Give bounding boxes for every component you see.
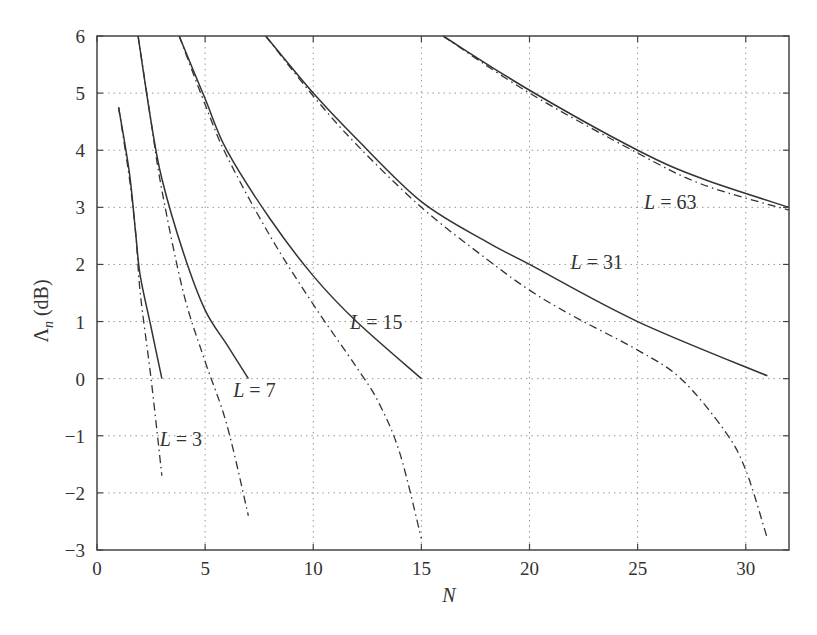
series-l-31-dash-dot <box>266 36 768 539</box>
y-tick-label: 4 <box>76 140 86 161</box>
series-l-63-dash-dot <box>443 36 789 210</box>
curve-label: L = 63 <box>643 191 696 213</box>
x-tick-label: 25 <box>628 558 647 579</box>
x-tick-label: 10 <box>304 558 323 579</box>
curve-label: L = 15 <box>349 311 402 333</box>
y-axis-title-subscript: n <box>41 321 56 328</box>
x-tick-label: 5 <box>200 558 210 579</box>
y-axis-title: Λn (dB) <box>30 279 56 342</box>
y-tick-label: 0 <box>76 369 86 390</box>
series-l-7 <box>138 36 248 379</box>
curve-label: L = 7 <box>232 379 275 401</box>
y-tick-label: 2 <box>76 254 86 275</box>
data-series <box>119 36 789 539</box>
y-tick-label: 3 <box>76 197 86 218</box>
line-chart: 051015202530−3−2−10123456 L = 3L = 7L = … <box>0 0 817 635</box>
plot-frame <box>97 36 789 550</box>
y-axis-title-symbol: Λ <box>30 328 52 343</box>
grid-lines <box>97 36 789 550</box>
curve-label: L = 3 <box>159 428 202 450</box>
x-tick-label: 0 <box>92 558 102 579</box>
curve-labels: L = 3L = 7L = 15L = 31L = 63 <box>159 191 697 450</box>
y-tick-label: −3 <box>65 540 85 561</box>
y-tick-label: 1 <box>76 312 86 333</box>
series-l-15-dash-dot <box>179 36 421 539</box>
x-tick-label: 15 <box>412 558 431 579</box>
y-tick-label: −1 <box>65 426 85 447</box>
y-tick-label: 5 <box>76 83 86 104</box>
x-tick-label: 20 <box>520 558 539 579</box>
x-tick-label: 30 <box>736 558 755 579</box>
y-tick-label: −2 <box>65 483 85 504</box>
series-l-3-dash-dot <box>119 107 162 475</box>
axis-ticks: 051015202530−3−2−10123456 <box>65 26 789 579</box>
x-axis-title: N <box>441 584 457 606</box>
series-l-63 <box>443 36 789 207</box>
y-tick-label: 6 <box>76 26 86 47</box>
y-axis-title-unit: (dB) <box>30 279 53 321</box>
curve-label: L = 31 <box>570 251 623 273</box>
